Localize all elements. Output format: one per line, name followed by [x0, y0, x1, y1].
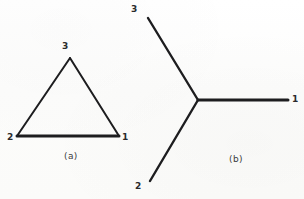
panel-a-linework: [17, 58, 119, 136]
panel-a-caption: (a): [64, 152, 78, 161]
panel-b-node-label-3: 3: [131, 5, 137, 14]
panel-a-node-label-3: 3: [62, 42, 68, 51]
panel-b-edge-junction-2: [150, 100, 198, 181]
figure-container: 3 2 1 (a) 3 2 1 (b): [0, 0, 304, 199]
panel-a-node-label-1: 1: [122, 133, 128, 142]
figure-linework: [0, 0, 304, 199]
panel-b-node-label-2: 2: [135, 182, 141, 191]
panel-a-node-label-2: 2: [7, 133, 13, 142]
panel-a-edge-3-1: [70, 58, 119, 136]
panel-b-edge-junction-3: [148, 18, 198, 100]
panel-b-linework: [148, 18, 288, 181]
panel-b-caption: (b): [229, 155, 243, 164]
panel-a-edge-2-3: [17, 58, 70, 136]
panel-b-node-label-1: 1: [292, 95, 298, 104]
